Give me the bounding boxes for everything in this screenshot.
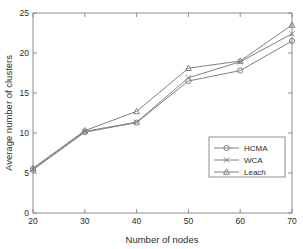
y-tick-5: 5 xyxy=(24,168,29,178)
x-tick-30: 30 xyxy=(80,216,90,226)
y-tick-20: 20 xyxy=(20,48,30,58)
x-tick-20: 20 xyxy=(28,216,38,226)
legend-label-leach: Leach xyxy=(244,168,266,177)
y-tick-15: 15 xyxy=(20,88,30,98)
y-tick-10: 10 xyxy=(20,128,30,138)
x-tick-60: 60 xyxy=(235,216,245,226)
legend-label-hcma: HCMA xyxy=(244,144,268,153)
chart-figure: 0510152025 203040506070 Number of nodes … xyxy=(0,0,303,249)
legend-label-wca: WCA xyxy=(244,156,263,165)
x-axis-tick-labels: 203040506070 xyxy=(28,216,297,226)
y-axis-tick-labels: 0510152025 xyxy=(20,8,30,218)
y-axis-title: Average number of clusters xyxy=(3,55,14,171)
line-chart: 0510152025 203040506070 Number of nodes … xyxy=(0,0,303,249)
y-tick-25: 25 xyxy=(20,8,30,18)
x-tick-40: 40 xyxy=(132,216,142,226)
x-tick-70: 70 xyxy=(287,216,297,226)
tick-marks xyxy=(33,13,292,213)
legend[interactable]: HCMAWCALeach xyxy=(209,137,285,177)
x-axis-title: Number of nodes xyxy=(126,234,199,245)
cross-marker xyxy=(186,75,191,80)
x-tick-50: 50 xyxy=(184,216,194,226)
plot-axes xyxy=(33,13,292,213)
